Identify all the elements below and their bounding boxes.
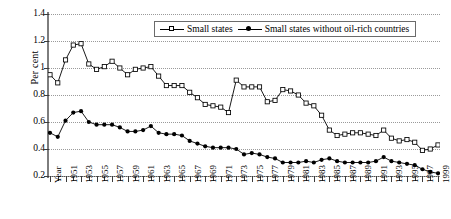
open-square-marker-icon: [79, 42, 83, 46]
filled-circle-marker-icon: [56, 135, 60, 139]
open-square-marker-icon: [273, 98, 277, 102]
open-square-marker-icon: [374, 133, 378, 137]
series-line: [50, 44, 438, 151]
filled-circle-marker-icon: [211, 146, 215, 150]
open-square-marker-icon: [382, 128, 386, 132]
open-square-marker-icon: [320, 113, 324, 117]
open-square-marker-icon: [335, 133, 339, 137]
open-square-marker-icon: [56, 81, 60, 85]
x-tick-label: 1969: [209, 165, 218, 183]
open-square-marker-icon: [428, 147, 432, 151]
open-square-marker-icon: [211, 104, 215, 108]
open-square-marker-icon: [219, 105, 223, 109]
filled-circle-marker-icon: [188, 139, 192, 143]
filled-circle-marker-icon: [250, 151, 254, 155]
open-square-marker-icon: [397, 139, 401, 143]
filled-circle-marker-icon: [351, 160, 355, 164]
x-tick-label: 1973: [240, 165, 249, 183]
filled-circle-marker-icon: [118, 125, 122, 129]
x-tick-label: 1987: [349, 165, 358, 183]
open-square-marker-icon: [149, 65, 153, 69]
filled-circle-marker-icon: [87, 120, 91, 124]
filled-circle-marker-icon: [257, 152, 261, 156]
x-tick-label: 1953: [85, 165, 94, 183]
open-square-marker-icon: [413, 140, 417, 144]
x-tick-label: 1981: [302, 165, 311, 183]
x-tick-label: 1995: [411, 165, 420, 183]
filled-circle-marker-icon: [164, 132, 168, 136]
filled-circle-marker-icon: [226, 146, 230, 150]
x-tick-label: 1955: [101, 165, 110, 183]
open-square-marker-icon: [296, 93, 300, 97]
legend: Small states Small states without oil-ri…: [154, 21, 416, 37]
x-tick-label: 1951: [70, 165, 79, 183]
y-tick-label: 0.2: [23, 171, 45, 181]
legend-label: Small states: [187, 24, 233, 34]
filled-circle-marker-icon: [126, 129, 130, 133]
open-square-marker-icon: [358, 131, 362, 135]
open-square-marker-icon: [234, 78, 238, 82]
filled-circle-marker-icon: [405, 162, 409, 166]
filled-circle-marker-icon: [195, 142, 199, 146]
y-tick-label: 0.6: [23, 117, 45, 127]
open-square-marker-icon: [118, 66, 122, 70]
y-tick-label: 1.2: [23, 36, 45, 46]
open-square-marker-icon: [110, 59, 114, 63]
filled-circle-marker-icon: [110, 123, 114, 127]
filled-circle-marker-icon: [296, 160, 300, 164]
filled-circle-marker-icon: [149, 124, 153, 128]
series-layer: [48, 14, 440, 176]
filled-circle-marker-icon: [48, 131, 52, 135]
open-square-marker-icon: [164, 83, 168, 87]
open-square-marker-icon: [265, 100, 269, 104]
filled-circle-marker-icon: [265, 155, 269, 159]
open-square-marker-icon: [63, 58, 67, 62]
x-tick-label: 1961: [147, 165, 156, 183]
filled-circle-marker-icon: [242, 152, 246, 156]
open-square-marker-icon: [48, 73, 52, 77]
open-square-marker-icon: [420, 148, 424, 152]
open-square-marker-icon: [102, 65, 106, 69]
open-square-marker-icon: [203, 102, 207, 106]
open-square-marker-icon: [343, 132, 347, 136]
y-tick-label: 0.4: [23, 144, 45, 154]
open-square-marker-icon: [141, 66, 145, 70]
filled-circle-marker-icon: [234, 147, 238, 151]
x-tick-label: 1975: [256, 165, 265, 183]
open-square-marker-icon: [242, 85, 246, 89]
open-square-marker-icon: [312, 104, 316, 108]
filled-circle-marker-icon: [288, 160, 292, 164]
filled-circle-marker-icon: [358, 160, 362, 164]
filled-circle-marker-icon: [312, 160, 316, 164]
filled-circle-marker-icon: [382, 155, 386, 159]
open-square-marker-icon: [257, 85, 261, 89]
filled-circle-marker-icon: [180, 133, 184, 137]
filled-circle-marker-icon: [238, 25, 262, 34]
filled-circle-marker-icon: [420, 167, 424, 171]
filled-circle-marker-icon: [436, 171, 440, 175]
x-tick-label: 1959: [132, 165, 141, 183]
x-tick-label: 1991: [380, 165, 389, 183]
filled-circle-marker-icon: [157, 131, 161, 135]
legend-label: Small states without oil-rich countries: [265, 24, 410, 34]
open-square-marker-icon: [133, 67, 137, 71]
open-square-marker-icon: [250, 85, 254, 89]
open-square-marker-icon: [126, 73, 130, 77]
y-tick-label: 1: [23, 63, 45, 73]
filled-circle-marker-icon: [366, 160, 370, 164]
y-tick-label: 0.8: [23, 90, 45, 100]
x-tick-label: 1957: [116, 165, 125, 183]
open-square-marker-icon: [304, 101, 308, 105]
open-square-marker-icon: [389, 136, 393, 140]
open-square-marker-icon: [405, 137, 409, 141]
open-square-marker-icon: [327, 128, 331, 132]
open-square-marker-icon: [195, 96, 199, 100]
filled-circle-marker-icon: [79, 109, 83, 113]
filled-circle-marker-icon: [389, 159, 393, 163]
filled-circle-marker-icon: [133, 129, 137, 133]
open-square-marker-icon: [288, 89, 292, 93]
x-tick-label: 1977: [271, 165, 280, 183]
x-tick-label: 1997: [426, 165, 435, 183]
open-square-marker-icon: [436, 143, 440, 147]
